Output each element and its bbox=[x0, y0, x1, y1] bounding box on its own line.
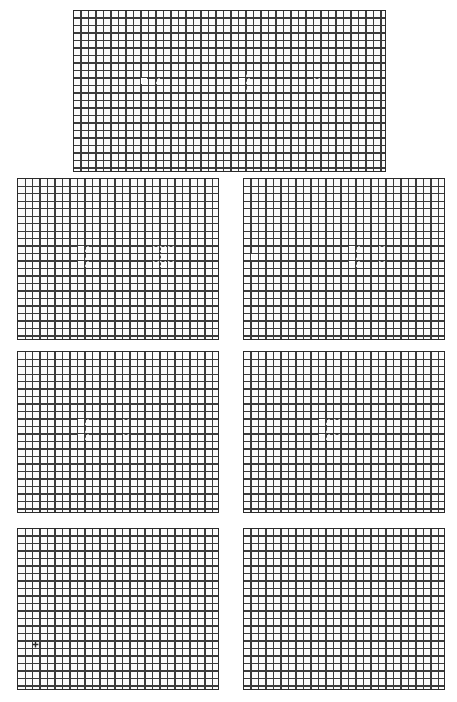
x-cross-marker bbox=[378, 246, 386, 254]
square-marker bbox=[238, 70, 246, 78]
marker-layer bbox=[243, 528, 445, 690]
triangle-marker bbox=[326, 426, 334, 434]
triangle-marker bbox=[85, 253, 93, 261]
square-marker bbox=[77, 434, 85, 442]
x-cross-marker bbox=[152, 246, 160, 254]
triangle-marker bbox=[326, 434, 334, 442]
marker-layer bbox=[243, 178, 445, 340]
x-cross-marker bbox=[333, 426, 341, 434]
panel-row3-left bbox=[17, 351, 219, 513]
square-marker bbox=[238, 85, 246, 93]
square-marker bbox=[318, 426, 326, 434]
x-cross-marker bbox=[152, 261, 160, 269]
square-marker bbox=[77, 261, 85, 269]
triangle-marker bbox=[356, 253, 364, 261]
triangle-marker bbox=[156, 78, 164, 86]
square-marker bbox=[348, 246, 356, 254]
square-marker bbox=[238, 78, 246, 86]
triangle-marker bbox=[246, 70, 254, 78]
x-cross-marker bbox=[378, 261, 386, 269]
plus-marker bbox=[32, 641, 40, 649]
panel-row2-right bbox=[243, 178, 445, 340]
square-marker bbox=[141, 78, 149, 86]
triangle-marker bbox=[356, 261, 364, 269]
marker-layer bbox=[17, 178, 219, 340]
x-cross-marker bbox=[167, 261, 175, 269]
x-cross-marker bbox=[167, 253, 175, 261]
x-cross-marker bbox=[160, 261, 168, 269]
triangle-marker bbox=[85, 261, 93, 269]
x-cross-marker bbox=[333, 419, 341, 427]
marker-layer bbox=[73, 10, 386, 172]
x-cross-marker bbox=[160, 253, 168, 261]
panel-row3-right bbox=[243, 351, 445, 513]
x-cross-marker bbox=[378, 253, 386, 261]
marker-layer bbox=[17, 528, 219, 690]
x-cross-marker bbox=[313, 85, 321, 93]
triangle-marker bbox=[258, 253, 266, 261]
marker-layer bbox=[243, 351, 445, 513]
triangle-marker bbox=[326, 419, 334, 427]
triangle-marker bbox=[85, 426, 93, 434]
triangle-marker bbox=[246, 85, 254, 93]
x-cross-marker bbox=[122, 426, 130, 434]
square-marker bbox=[318, 419, 326, 427]
square-marker bbox=[77, 246, 85, 254]
x-cross-marker bbox=[160, 246, 168, 254]
triangle-marker bbox=[85, 419, 93, 427]
x-cross-marker bbox=[313, 78, 321, 86]
x-cross-marker bbox=[167, 246, 175, 254]
square-marker bbox=[251, 253, 259, 261]
triangle-marker bbox=[85, 434, 93, 442]
marker-layer bbox=[17, 351, 219, 513]
triangle-marker bbox=[246, 78, 254, 86]
x-cross-marker bbox=[122, 419, 130, 427]
panel-top bbox=[73, 10, 386, 172]
triangle-marker bbox=[85, 246, 93, 254]
panel-row2-left bbox=[17, 178, 219, 340]
square-marker bbox=[318, 434, 326, 442]
x-cross-marker bbox=[333, 434, 341, 442]
square-marker bbox=[77, 253, 85, 261]
panel-row4-left bbox=[17, 528, 219, 690]
x-cross-marker bbox=[152, 253, 160, 261]
panel-row4-right bbox=[243, 528, 445, 690]
square-marker bbox=[348, 253, 356, 261]
square-marker bbox=[348, 261, 356, 269]
x-cross-marker bbox=[122, 434, 130, 442]
square-marker bbox=[77, 426, 85, 434]
triangle-marker bbox=[356, 246, 364, 254]
square-marker bbox=[77, 419, 85, 427]
x-cross-marker bbox=[313, 70, 321, 78]
